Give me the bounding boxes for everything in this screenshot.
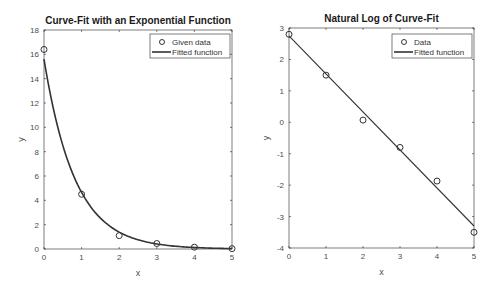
chart-title: Curve-Fit with an Exponential Function (45, 15, 231, 26)
data-point-marker (360, 117, 366, 123)
y-tick-label: -4 (277, 244, 285, 253)
x-axis-label: x (379, 267, 384, 277)
y-tick-label: 4 (35, 196, 40, 205)
legend-label: Given data (172, 38, 211, 47)
natural-log-plot: 012345-4-3-2-10123Natural Log of Curve-F… (261, 13, 477, 277)
y-tick-label: 10 (30, 123, 39, 132)
x-tick-label: 2 (361, 252, 366, 261)
legend-label: Fitted function (172, 48, 222, 57)
y-axis-label: y (16, 137, 26, 142)
x-tick-label: 0 (42, 253, 47, 262)
chart-title: Natural Log of Curve-Fit (324, 13, 439, 24)
x-tick-label: 0 (287, 252, 292, 261)
y-tick-label: 8 (35, 148, 40, 157)
y-tick-label: 0 (280, 118, 285, 127)
x-tick-label: 2 (117, 253, 122, 262)
legend-label: Fitted function (414, 48, 464, 57)
legend-label: Data (414, 38, 431, 47)
y-axis-label: y (261, 135, 271, 140)
fitted-function-line (289, 36, 474, 226)
x-tick-label: 1 (79, 253, 84, 262)
x-axis-label: x (136, 268, 141, 278)
x-tick-label: 1 (324, 252, 329, 261)
data-point-marker (323, 72, 329, 78)
axes-box (289, 28, 474, 248)
data-point-marker (116, 233, 122, 239)
x-tick-label: 3 (155, 253, 160, 262)
legend: DataFitted function (392, 34, 472, 58)
y-tick-label: -3 (277, 213, 285, 222)
y-tick-label: 0 (35, 245, 40, 254)
y-tick-label: 12 (30, 99, 39, 108)
y-tick-label: 2 (35, 221, 40, 230)
y-tick-label: 14 (30, 75, 39, 84)
y-tick-label: 3 (280, 24, 285, 33)
y-tick-label: 2 (280, 55, 285, 64)
x-tick-label: 4 (435, 252, 440, 261)
y-tick-label: -2 (277, 181, 285, 190)
y-tick-label: -1 (277, 150, 285, 159)
data-point-marker (434, 178, 440, 184)
legend: Given dataFitted function (150, 34, 230, 58)
y-tick-label: 6 (35, 172, 40, 181)
x-tick-label: 3 (398, 252, 403, 261)
exponential-fit-plot: 012345024681012141618Curve-Fit with an E… (16, 15, 235, 278)
fitted-function-line (44, 59, 232, 248)
y-tick-label: 18 (30, 26, 39, 35)
y-tick-label: 16 (30, 50, 39, 59)
x-tick-label: 4 (192, 253, 197, 262)
x-tick-label: 5 (230, 253, 235, 262)
x-tick-label: 5 (472, 252, 477, 261)
figure: 012345024681012141618Curve-Fit with an E… (0, 0, 503, 288)
y-tick-label: 1 (280, 87, 285, 96)
axes-box (44, 30, 232, 249)
